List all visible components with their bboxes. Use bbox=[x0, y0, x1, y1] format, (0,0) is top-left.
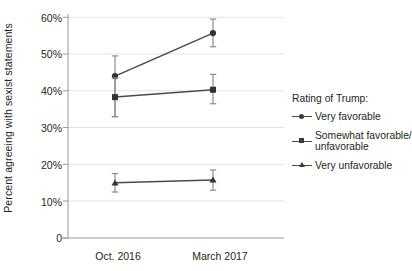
gridlines bbox=[68, 17, 284, 201]
series-circle bbox=[112, 19, 216, 116]
axis-lines bbox=[62, 14, 284, 238]
series-line bbox=[115, 180, 213, 183]
chart-figure: Percent agreeing with sexist statements … bbox=[0, 0, 412, 271]
data-point-circle bbox=[210, 30, 216, 36]
legend-item-label: Somewhat favorable/ unfavorable bbox=[315, 130, 412, 153]
legend-square-marker-icon bbox=[292, 135, 312, 147]
legend-triangle-marker-icon bbox=[292, 160, 312, 172]
data-point-square bbox=[112, 94, 118, 100]
series-layer bbox=[112, 19, 217, 192]
legend-title: Rating of Trump: bbox=[292, 93, 412, 105]
data-point-square bbox=[210, 87, 216, 93]
legend-item-very-favorable[interactable]: Very favorable bbox=[292, 111, 412, 123]
legend-item-somewhat-favorable-unfavorable[interactable]: Somewhat favorable/ unfavorable bbox=[292, 130, 412, 153]
series-square bbox=[112, 74, 216, 116]
legend-item-label: Very favorable bbox=[315, 111, 381, 123]
legend: Rating of Trump: Very favorable Somewhat… bbox=[292, 93, 412, 179]
series-triangle bbox=[112, 170, 217, 192]
legend-item-label: Very unfavorable bbox=[315, 160, 392, 172]
legend-item-very-unfavorable[interactable]: Very unfavorable bbox=[292, 160, 412, 172]
series-line bbox=[115, 33, 213, 76]
legend-circle-marker-icon bbox=[292, 111, 312, 123]
